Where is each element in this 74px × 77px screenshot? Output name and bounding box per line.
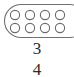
counter-circle [55,23,64,32]
group-shape-area [0,0,74,42]
counter-circle [25,10,34,19]
counter-circle [10,10,19,19]
fraction-label: 3 4 [0,40,74,77]
counter-circle [40,23,49,32]
counter-circle [55,10,64,19]
group-shape-svg [0,0,74,42]
counter-circle [40,10,49,19]
fraction-model-diagram: 3 4 [0,0,74,77]
counter-circle [25,23,34,32]
fraction-denominator: 4 [33,61,42,77]
counter-circle [10,23,19,32]
fraction-numerator: 3 [33,40,42,57]
